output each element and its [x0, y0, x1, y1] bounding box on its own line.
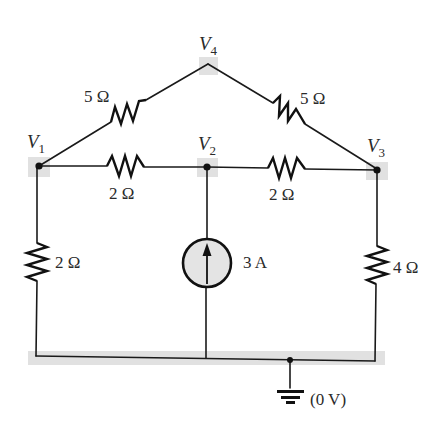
- ground-label: (0 V): [310, 390, 346, 409]
- resistor-v4-v3-label: 5 Ω: [300, 89, 325, 108]
- node-v1-dot: [35, 162, 42, 169]
- resistor-v3-ground-label: 4 Ω: [393, 258, 418, 277]
- node-v4-label: V4: [199, 33, 218, 58]
- ground-icon: [277, 390, 304, 404]
- resistor-v3-ground: [367, 246, 387, 284]
- node-v3-label: V3: [367, 135, 385, 160]
- current-source: [183, 239, 231, 287]
- node-v1-label: V1: [27, 131, 45, 156]
- circuit-diagram: V4 V1 V2 V3 5 Ω 5 Ω 2 Ω 2 Ω 2 Ω 4 Ω 3 A …: [0, 0, 442, 435]
- current-source-label: 3 A: [243, 253, 268, 272]
- node-v2-label: V2: [198, 133, 216, 158]
- node-v3-dot: [373, 166, 380, 173]
- resistor-v1-v4: [111, 100, 146, 124]
- resistor-v1-ground-label: 2 Ω: [55, 253, 80, 272]
- resistor-v1-v2: [107, 156, 144, 176]
- resistor-v1-v4-label: 5 Ω: [84, 87, 109, 106]
- node-v2-dot: [203, 163, 210, 170]
- resistor-v1-ground: [27, 243, 47, 281]
- resistor-v2-v3: [268, 158, 305, 178]
- resistor-v1-v2-label: 2 Ω: [109, 184, 134, 203]
- ground-junction-dot: [287, 357, 293, 363]
- resistor-v2-v3-label: 2 Ω: [269, 185, 294, 204]
- wires: [36, 64, 377, 388]
- node-v4-highlight: [199, 57, 218, 75]
